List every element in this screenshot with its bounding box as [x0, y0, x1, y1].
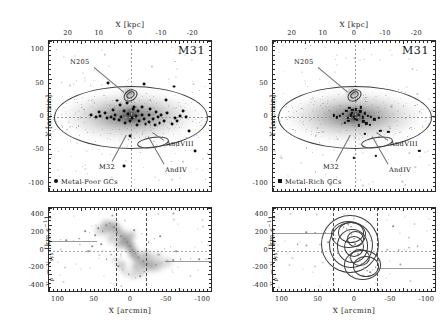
tick-mark	[433, 107, 435, 108]
tick-mark	[403, 288, 404, 291]
tick-mark	[187, 208, 188, 210]
tick-mark	[209, 182, 211, 183]
tick-mark	[130, 41, 131, 43]
velocity-point-faint	[103, 275, 104, 276]
tick-mark	[209, 250, 211, 251]
tick-mark	[432, 208, 435, 209]
velocity-point-faint	[351, 210, 352, 211]
tick-mark	[382, 289, 383, 291]
tick-mark	[342, 189, 343, 191]
tick-mark	[309, 208, 310, 210]
gc-marker	[105, 117, 108, 120]
tick-mark	[374, 41, 375, 43]
tick-mark	[330, 208, 331, 210]
tick-mark	[203, 189, 204, 191]
tick-mark	[77, 208, 78, 210]
tick-mark	[433, 55, 435, 56]
velocity-point-faint	[89, 244, 90, 245]
tick-mark	[334, 289, 335, 291]
gc-marker	[152, 117, 155, 120]
v-unit: [km s	[43, 227, 52, 252]
v-exponent: −1	[266, 219, 272, 227]
tick-mark	[293, 41, 294, 43]
tick-mark	[407, 208, 408, 210]
tick-mark	[158, 208, 159, 210]
tick-mark	[415, 289, 416, 291]
tick-mark	[90, 189, 91, 191]
tick-mark	[195, 208, 196, 210]
gc-marker	[378, 117, 380, 119]
gc-marker	[94, 115, 97, 118]
tick-mark	[407, 289, 408, 291]
velocity-point-faint	[290, 213, 291, 214]
tick-mark	[432, 241, 435, 242]
tick-mark	[171, 41, 172, 43]
tick-mark	[309, 289, 310, 291]
velocity-point-faint	[385, 278, 386, 279]
gc-marker	[359, 110, 361, 112]
tick-mark	[399, 208, 400, 210]
tick-mark	[350, 289, 351, 291]
tick-mark	[273, 177, 275, 178]
gc-marker	[336, 116, 338, 118]
gc-marker	[387, 131, 389, 133]
tick-mark	[374, 189, 375, 191]
tick-mark	[433, 60, 435, 61]
tick-mark	[208, 274, 211, 275]
velocity-point	[109, 222, 111, 224]
tick-mark	[118, 189, 119, 191]
tick-mark	[346, 208, 347, 210]
gc-marker	[364, 112, 366, 114]
tick-mark	[289, 41, 290, 43]
gc-marker	[138, 120, 141, 123]
tick-mark	[399, 41, 400, 43]
tick-mark	[390, 189, 391, 191]
tick-mark	[130, 208, 131, 210]
tick-mark	[209, 102, 211, 103]
tick-label-x: 50	[313, 295, 322, 303]
gc-marker	[353, 157, 355, 159]
velocity-point-faint	[120, 254, 121, 255]
tick-mark	[370, 208, 371, 211]
tick-mark	[209, 172, 211, 173]
tick-mark	[281, 189, 282, 191]
tick-mark	[277, 41, 278, 43]
tick-mark	[273, 69, 275, 70]
velocity-point	[353, 238, 355, 240]
tick-mark	[49, 60, 51, 61]
v-symbol: v	[267, 281, 276, 285]
velocity-point	[327, 242, 329, 244]
velocity-point	[164, 248, 166, 250]
tick-mark	[423, 41, 424, 43]
velocity-point	[392, 225, 394, 227]
tick-mark	[203, 41, 204, 43]
gc-marker	[127, 113, 130, 116]
tick-mark	[122, 41, 123, 43]
tick-mark	[208, 79, 211, 80]
tick-mark	[57, 189, 58, 191]
tick-mark	[183, 41, 184, 43]
tick-mark	[407, 41, 408, 43]
tick-mark	[433, 69, 435, 70]
tick-mark	[162, 189, 163, 191]
tick-mark	[209, 283, 211, 284]
velocity-point	[190, 258, 192, 260]
tick-mark	[199, 41, 200, 43]
tick-mark	[187, 289, 188, 291]
gc-marker	[348, 107, 350, 109]
tick-mark	[297, 289, 298, 291]
tick-label-x: 10	[318, 29, 327, 37]
tick-mark	[130, 189, 131, 191]
gc-marker	[185, 116, 188, 119]
tick-mark	[118, 41, 119, 43]
tick-mark	[433, 121, 435, 122]
tick-mark	[73, 208, 74, 210]
tick-mark	[77, 189, 78, 191]
tick-mark	[209, 88, 211, 89]
gc-marker	[144, 123, 147, 126]
tick-mark	[423, 208, 424, 210]
tick-mark	[322, 189, 323, 191]
tick-mark	[171, 289, 172, 291]
tick-mark	[354, 189, 355, 191]
velocity-point-faint	[306, 245, 307, 246]
